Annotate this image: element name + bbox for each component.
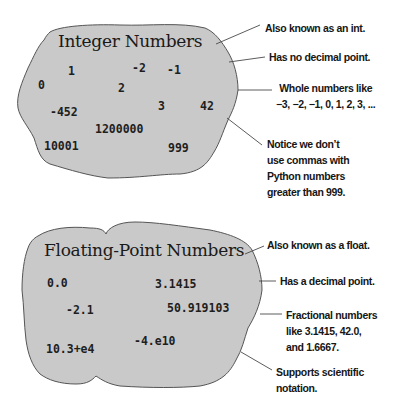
callout-int-alias: Also known as an int. bbox=[265, 20, 365, 36]
callout-line-no-decimal bbox=[229, 57, 265, 62]
integer-title: Integer Numbers bbox=[58, 31, 202, 51]
callout-line-text: like 3.1415, 42.0, bbox=[286, 323, 377, 339]
integer-value: 2 bbox=[118, 81, 125, 95]
float-value: 0.0 bbox=[47, 276, 68, 290]
integer-value: -452 bbox=[50, 105, 78, 119]
integer-value: 999 bbox=[168, 141, 189, 155]
callout-line-commas bbox=[227, 118, 262, 145]
callout-line-text: Has no decimal point. bbox=[269, 49, 370, 65]
callout-scientific: Supports scientific notation. bbox=[276, 364, 364, 396]
integer-value: 10001 bbox=[44, 139, 79, 153]
callout-line-text: Supports scientific bbox=[276, 364, 364, 380]
integer-value: 42 bbox=[200, 99, 214, 113]
float-value: 3.1415 bbox=[155, 277, 197, 291]
callout-line-text: Also known as a float. bbox=[267, 237, 370, 253]
callout-line-int bbox=[216, 25, 260, 44]
callout-line-text: Has a decimal point. bbox=[280, 273, 375, 289]
callout-decimal: Has a decimal point. bbox=[280, 273, 375, 289]
float-value: 10.3+e4 bbox=[46, 342, 94, 356]
callout-no-decimal: Has no decimal point. bbox=[269, 49, 370, 65]
callout-line-text: Python numbers bbox=[267, 168, 349, 184]
callout-line-text: notation. bbox=[276, 380, 364, 396]
integer-value: 1200000 bbox=[95, 122, 143, 136]
callout-line-text: Notice we don’t bbox=[267, 136, 349, 152]
float-value: -2.1 bbox=[66, 303, 94, 317]
callout-no-commas: Notice we don’t use commas with Python n… bbox=[267, 136, 349, 200]
callout-line-text: Fractional numbers bbox=[286, 307, 377, 323]
callout-line-text: −3, −2, −1, 0, 1, 2, 3, ... bbox=[276, 96, 375, 112]
number-types-diagram: Integer Numbers 1 -2 -1 0 2 -452 3 42 12… bbox=[0, 0, 393, 413]
integer-value: 0 bbox=[38, 78, 45, 92]
callout-whole-numbers: Whole numbers like −3, −2, −1, 0, 1, 2, … bbox=[276, 80, 375, 112]
integer-value: 1 bbox=[68, 64, 75, 78]
callout-fractional: Fractional numbers like 3.1415, 42.0, an… bbox=[286, 307, 377, 355]
callout-line-text: use commas with bbox=[267, 152, 349, 168]
callout-line-text: and 1.6667. bbox=[286, 339, 377, 355]
float-value: -4.e10 bbox=[134, 334, 176, 348]
integer-value: -2 bbox=[132, 61, 146, 75]
float-title: Floating-Point Numbers bbox=[44, 240, 244, 260]
callout-line-text: Whole numbers like bbox=[276, 80, 375, 96]
float-value: 50.919103 bbox=[167, 301, 229, 315]
callout-float-alias: Also known as a float. bbox=[267, 237, 370, 253]
callout-line-scientific bbox=[241, 352, 272, 370]
callout-line-text: greater than 999. bbox=[267, 184, 349, 200]
callout-line-text: Also known as an int. bbox=[265, 20, 365, 36]
integer-value: -1 bbox=[167, 63, 181, 77]
integer-value: 3 bbox=[158, 99, 165, 113]
